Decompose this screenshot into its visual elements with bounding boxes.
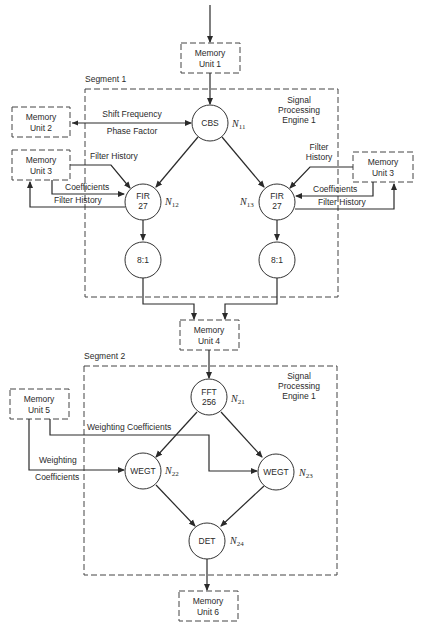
svg-text:Memory: Memory (24, 394, 55, 404)
svg-text:N13: N13 (239, 196, 254, 209)
memory-unit-1: Memory Unit 1 (181, 43, 240, 73)
engine-2-label-line1: Signal (287, 371, 311, 381)
label-coefficients-left: Coefficients (35, 472, 79, 482)
segment-2-label: Segment 2 (84, 351, 125, 361)
svg-text:Memory: Memory (368, 157, 399, 167)
svg-text:N23: N23 (298, 467, 313, 480)
svg-text:Unit 3: Unit 3 (30, 166, 52, 176)
svg-text:FIR: FIR (136, 191, 150, 201)
svg-text:Unit 2: Unit 2 (30, 123, 52, 133)
label-weighting-left: Weighting (39, 455, 77, 465)
svg-text:8:1: 8:1 (271, 255, 283, 265)
label-shift-frequency: Shift Frequency (102, 109, 162, 119)
label-phase-factor: Phase Factor (107, 126, 158, 136)
svg-text:N22: N22 (164, 465, 179, 478)
memory-unit-4: Memory Unit 4 (180, 320, 239, 350)
svg-text:WEGT: WEGT (263, 467, 289, 477)
svg-text:27: 27 (138, 201, 148, 211)
node-wegt-right: WEGT N23 (258, 454, 313, 490)
svg-text:N11: N11 (231, 118, 246, 131)
label-left-coefficients: Coefficients (65, 182, 109, 192)
engine-2-label-line2: Processing (278, 381, 320, 391)
engine-1-label-line3: Engine 1 (282, 115, 316, 125)
svg-text:FFT: FFT (201, 387, 217, 397)
svg-text:Unit 4: Unit 4 (198, 336, 220, 346)
svg-text:Unit 1: Unit 1 (199, 59, 221, 69)
svg-text:Memory: Memory (26, 112, 57, 122)
label-weighting-coefficients-top: Weighting Coefficients (87, 422, 171, 432)
label-right-coefficients: Coefficients (313, 184, 357, 194)
node-fft: FFT 256 N21 (191, 379, 245, 415)
svg-text:WEGT: WEGT (130, 466, 156, 476)
engine-2-label-line3: Engine 1 (282, 391, 316, 401)
svg-text:Memory: Memory (26, 155, 57, 165)
label-right-filter-history-in-2: History (306, 152, 333, 162)
svg-text:27: 27 (272, 201, 282, 211)
memory-unit-3-left: Memory Unit 3 (12, 150, 70, 180)
svg-text:8:1: 8:1 (137, 255, 149, 265)
label-left-filter-history-in: Filter History (90, 151, 138, 161)
node-wegt-left: WEGT N22 (125, 453, 179, 489)
label-right-filter-history-out: Filter History (318, 197, 366, 207)
memory-unit-5: Memory Unit 5 (10, 389, 69, 419)
svg-text:Unit 6: Unit 6 (197, 607, 219, 617)
label-left-filter-history-out: Filter History (54, 195, 102, 205)
svg-text:Memory: Memory (193, 596, 224, 606)
engine-1-label-line2: Processing (278, 105, 320, 115)
memory-unit-3-right: Memory Unit 3 (353, 152, 413, 182)
svg-text:N21: N21 (230, 393, 245, 406)
node-decimator-left: 8:1 (125, 242, 161, 278)
label-right-filter-history-in-1: Filter (310, 142, 329, 152)
svg-text:N24: N24 (229, 535, 244, 548)
node-cbs: CBS N11 (192, 105, 246, 141)
signal-processing-diagram: Segment 1 Signal Processing Engine 1 Seg… (0, 0, 422, 629)
svg-text:Memory: Memory (194, 325, 225, 335)
svg-text:Unit 5: Unit 5 (28, 405, 50, 415)
svg-text:Memory: Memory (195, 48, 226, 58)
segment-1-label: Segment 1 (85, 74, 126, 84)
engine-1-label-line1: Signal (287, 95, 311, 105)
node-fir-left: FIR 27 N12 (125, 184, 179, 220)
node-decimator-right: 8:1 (259, 242, 295, 278)
svg-text:N12: N12 (164, 196, 179, 209)
node-det: DET N24 (189, 523, 244, 559)
memory-unit-6: Memory Unit 6 (179, 591, 238, 621)
svg-text:Unit 3: Unit 3 (372, 168, 394, 178)
svg-text:DET: DET (199, 536, 216, 546)
memory-unit-2: Memory Unit 2 (12, 107, 70, 137)
svg-text:256: 256 (202, 397, 216, 407)
svg-text:FIR: FIR (270, 191, 284, 201)
svg-text:CBS: CBS (201, 118, 219, 128)
node-fir-right: FIR 27 N13 (239, 184, 295, 220)
